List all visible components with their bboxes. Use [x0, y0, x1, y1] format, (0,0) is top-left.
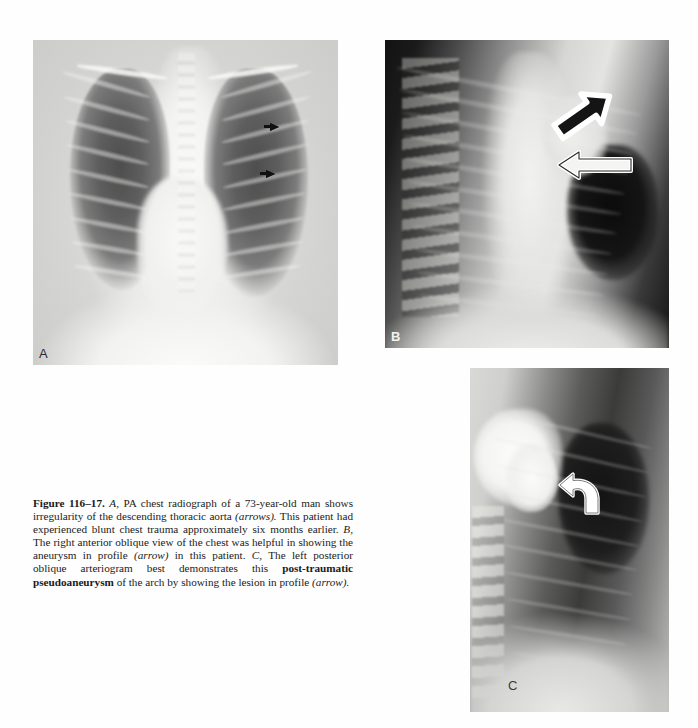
caption-segment: of the arch by showing the lesion in pro… — [114, 576, 312, 588]
panel-b-diaphragm — [385, 280, 669, 348]
caption-segment: (arrow). — [312, 576, 349, 588]
panel-a-aorta-arrow-upper — [270, 123, 279, 131]
rib-shadow — [407, 179, 621, 217]
rib-shadow — [400, 110, 633, 156]
rib-shadow — [73, 264, 147, 280]
rib-shadow — [67, 167, 149, 190]
panel-c-diaphragm — [470, 609, 669, 712]
rib-shadow — [223, 215, 304, 235]
rib-shadow — [497, 490, 644, 524]
figure-caption: Figure 116–17. A, PA chest radiograph of… — [33, 497, 353, 589]
rib-shadow — [222, 191, 305, 213]
figure-page: A B — [0, 0, 698, 728]
rib-shadow — [70, 215, 148, 234]
rib-shadow — [68, 191, 148, 212]
rib-shadow — [398, 87, 638, 136]
panel-a-film — [33, 40, 338, 365]
caption-segment: C, — [252, 549, 262, 561]
panel-a-ribcage — [33, 40, 338, 365]
panel-c-lpo-arteriogram[interactable]: C — [470, 368, 669, 712]
figure-caption-text: Figure 116–17. A, PA chest radiograph of… — [33, 497, 353, 588]
rib-shadow — [66, 143, 150, 167]
panel-a-aorta-arrow-lower — [266, 170, 275, 178]
caption-segment: (arrow) — [134, 549, 168, 561]
rib-shadow — [222, 167, 307, 190]
rib-shadow — [221, 142, 308, 167]
rib-shadow — [489, 409, 653, 450]
rib-shadow — [403, 133, 630, 176]
caption-segment: A, — [109, 497, 119, 509]
caption-segment: Figure 116–17. — [33, 497, 105, 509]
rib-shadow — [64, 118, 150, 144]
panel-a-pa-chest-radiograph[interactable]: A — [33, 40, 338, 365]
rib-shadow — [223, 239, 302, 257]
rib-shadow — [504, 570, 634, 597]
rib-shadow — [221, 118, 310, 145]
caption-segment: (arrows). — [235, 510, 277, 522]
rib-shadow — [221, 94, 312, 123]
rib-shadow — [63, 94, 151, 122]
rib-shadow — [71, 240, 147, 258]
caption-segment: in this patient. — [168, 549, 251, 561]
panel-b-rao-chest-radiograph[interactable]: B — [385, 40, 669, 348]
rib-shadow — [499, 517, 640, 548]
rib-shadow — [501, 543, 637, 572]
panel-c-film — [470, 368, 669, 712]
rib-shadow — [224, 264, 301, 281]
rib-shadow — [405, 156, 626, 197]
caption-segment: B, — [343, 523, 353, 535]
panel-b-film — [385, 40, 669, 348]
